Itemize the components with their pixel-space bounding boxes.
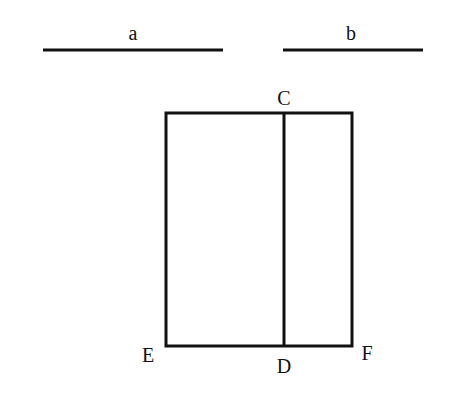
geometry-diagram: a b C D E F [0,0,450,405]
rectangle-cefd [166,113,352,346]
label-e: E [142,344,154,366]
label-b: b [346,22,356,44]
label-a: a [129,22,138,44]
label-f: F [361,342,372,364]
label-c: C [277,87,290,109]
label-d: D [277,355,291,377]
